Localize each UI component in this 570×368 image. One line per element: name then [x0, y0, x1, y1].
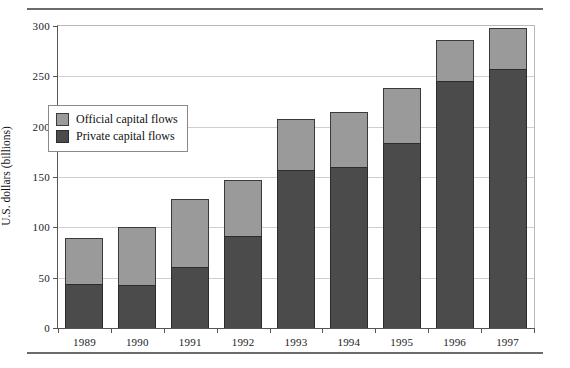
x-axis-tick-label: 1996	[443, 336, 466, 348]
bar-segment-private	[489, 69, 527, 328]
bar-segment-private	[65, 284, 103, 328]
bar-1994	[330, 112, 368, 328]
x-axis-tick	[428, 328, 429, 333]
y-axis-title: U.S. dollars (billions)	[0, 126, 12, 226]
y-axis-tick-label: 50	[38, 272, 50, 284]
bar-1995	[383, 88, 421, 328]
bar-1996	[436, 40, 474, 328]
x-axis-tick-label: 1991	[179, 336, 202, 348]
bar-1993	[277, 119, 315, 328]
bar-segment-official	[277, 119, 315, 170]
y-axis-tick-label: 0	[44, 322, 50, 334]
legend-swatch-private	[56, 130, 69, 143]
bar-segment-private	[224, 236, 262, 328]
y-axis-tick-label: 250	[33, 70, 50, 82]
x-axis-tick	[217, 328, 218, 333]
bar-segment-private	[330, 167, 368, 328]
x-axis-tick	[58, 328, 59, 333]
bar-1997	[489, 28, 527, 328]
legend-label: Official capital flows	[76, 112, 178, 127]
chart-figure: U.S. dollars (billions) 0501001502002503…	[0, 0, 570, 368]
bar-segment-official	[224, 180, 262, 236]
bar-segment-official	[171, 199, 209, 266]
x-axis-tick	[481, 328, 482, 333]
bar-1989	[65, 238, 103, 328]
x-axis-tick	[164, 328, 165, 333]
bar-segment-private	[277, 170, 315, 328]
x-axis-tick-label: 1993	[285, 336, 308, 348]
legend-item: Official capital flows	[56, 111, 178, 128]
y-axis-tick-label: 100	[33, 221, 50, 233]
bar-segment-official	[489, 28, 527, 69]
bar-segment-private	[171, 267, 209, 328]
bottom-rule	[27, 352, 543, 354]
y-axis-tick-label: 300	[33, 20, 50, 32]
bar-1992	[224, 180, 262, 328]
bar-segment-private	[118, 285, 156, 328]
x-axis-tick-label: 1989	[73, 336, 96, 348]
x-axis-tick	[375, 328, 376, 333]
bar-segment-official	[65, 238, 103, 283]
y-axis-tick-label: 150	[33, 171, 50, 183]
x-axis-tick-label: 1995	[390, 336, 413, 348]
x-axis-tick	[534, 328, 535, 333]
x-axis-tick-label: 1990	[126, 336, 149, 348]
bar-segment-official	[436, 40, 474, 81]
x-axis-tick	[270, 328, 271, 333]
legend-label: Private capital flows	[76, 129, 175, 144]
bar-1990	[118, 227, 156, 328]
legend-item: Private capital flows	[56, 128, 178, 145]
bar-1991	[171, 199, 209, 328]
bar-segment-private	[436, 81, 474, 328]
x-axis-tick-label: 1992	[232, 336, 255, 348]
x-axis-tick-label: 1994	[337, 336, 360, 348]
bar-segment-official	[330, 112, 368, 167]
x-axis-tick-label: 1997	[496, 336, 519, 348]
bar-group	[58, 26, 534, 328]
bar-segment-official	[118, 227, 156, 284]
top-rule	[27, 8, 543, 10]
chart-legend: Official capital flowsPrivate capital fl…	[48, 105, 188, 152]
legend-swatch-official	[56, 113, 69, 126]
bar-segment-private	[383, 143, 421, 328]
x-axis-tick	[111, 328, 112, 333]
bar-segment-official	[383, 88, 421, 142]
x-axis-tick	[322, 328, 323, 333]
plot-area: 050100150200250300 198919901991199219931…	[57, 25, 535, 329]
